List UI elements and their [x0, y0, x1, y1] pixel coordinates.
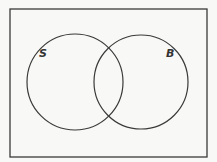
venn-diagram: S B	[0, 0, 217, 162]
universe-rectangle	[10, 9, 207, 157]
set-s-label: S	[39, 47, 47, 60]
set-b-label: B	[166, 47, 174, 60]
